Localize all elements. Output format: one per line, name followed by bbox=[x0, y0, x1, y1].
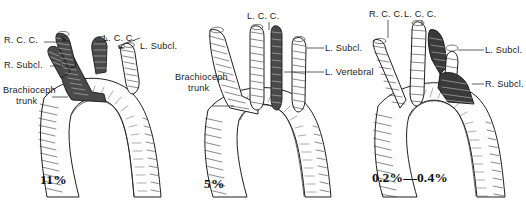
variant-panel-aberrant-right-subclavian: R. C. C. L. C. C. L. Subcl. R. Subcl. 0.… bbox=[344, 0, 526, 203]
percentage-label: 5% bbox=[204, 176, 225, 192]
percentage-label: 11% bbox=[40, 172, 67, 188]
label-lsub: L. Subcl. bbox=[485, 45, 522, 56]
variant-panel-normal: R. C. C. R. Subcl. Brachioceph trunk L. … bbox=[0, 0, 178, 203]
lsub-cut-end bbox=[446, 45, 458, 51]
aortic-arch-variants-figure: R. C. C. R. Subcl. Brachioceph trunk L. … bbox=[0, 0, 526, 203]
left-common-carotid bbox=[410, 22, 426, 106]
label-rcc: R. C. C. bbox=[4, 35, 38, 46]
label-brachioceph-trunk: Brachioceph trunk bbox=[3, 85, 56, 107]
label-bct-line2: trunk bbox=[175, 83, 228, 94]
percentage-label: 0.2%—0.4% bbox=[372, 170, 448, 186]
label-rcc: R. C. C. bbox=[369, 9, 403, 20]
label-lcc: L. C. C. bbox=[103, 33, 135, 44]
label-bct-line1: Brachioceph bbox=[175, 72, 228, 82]
label-bct-line1: Brachioceph bbox=[3, 85, 56, 95]
label-rsub: R. Subcl. bbox=[4, 60, 43, 71]
panel-2-illustration bbox=[172, 0, 348, 203]
variant-panel-common-origin: Brachioceph trunk L. C. C. L. Subcl. L. … bbox=[172, 0, 348, 203]
label-rsub: R. Subcl. bbox=[485, 79, 524, 90]
label-lcc: L. C. C. bbox=[404, 9, 436, 20]
label-bct-line2: trunk bbox=[3, 96, 56, 107]
label-brachioceph-trunk: Brachioceph trunk bbox=[175, 72, 228, 94]
label-lcc: L. C. C. bbox=[247, 11, 279, 22]
